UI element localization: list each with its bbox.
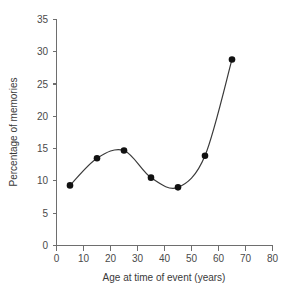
- x-tick-label: 30: [132, 253, 144, 264]
- y-tick-label: 30: [37, 46, 49, 57]
- y-axis-tick-labels: 0 5 10 15 20 25 30 35: [37, 14, 49, 251]
- y-tick-label: 35: [37, 14, 49, 25]
- data-point: [67, 182, 74, 189]
- x-tick-label: 80: [267, 253, 279, 264]
- y-tick-label: 5: [42, 208, 48, 219]
- x-tick-label: 40: [159, 253, 171, 264]
- y-axis-title: Percentage of memories: [8, 78, 19, 187]
- x-tick-label: 0: [54, 253, 60, 264]
- x-tick-label: 70: [240, 253, 252, 264]
- data-point: [148, 174, 155, 181]
- line-chart: 0 5 10 15 20 25 30 35 0 10 20 30: [0, 0, 287, 293]
- x-tick-label: 60: [213, 253, 225, 264]
- x-tick-label: 10: [78, 253, 90, 264]
- chart-figure: 0 5 10 15 20 25 30 35 0 10 20 30: [0, 0, 287, 293]
- y-tick-label: 20: [37, 111, 49, 122]
- data-point: [202, 152, 209, 159]
- y-tick-label: 0: [42, 240, 48, 251]
- y-tick-label: 10: [37, 175, 49, 186]
- x-tick-label: 50: [186, 253, 198, 264]
- data-point: [94, 155, 101, 162]
- data-point: [175, 184, 182, 191]
- data-point: [229, 56, 236, 63]
- y-axis-ticks: [53, 19, 57, 245]
- x-axis-title: Age at time of event (years): [103, 272, 226, 283]
- y-tick-label: 25: [37, 79, 49, 90]
- x-axis-ticks: [57, 246, 273, 251]
- data-point: [121, 147, 128, 154]
- x-tick-label: 20: [105, 253, 117, 264]
- x-axis-tick-labels: 0 10 20 30 40 50 60 70 80: [54, 253, 279, 264]
- data-point-markers: [67, 56, 236, 191]
- data-line: [70, 59, 232, 188]
- y-tick-label: 15: [37, 143, 49, 154]
